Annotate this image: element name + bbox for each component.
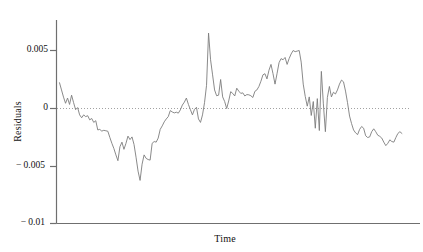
x-axis-title: Time [160,233,290,244]
chart-figure: 0.005 0 − 0.005 − 0.01 Residuals Time [0,0,423,252]
y-axis-title: Residuals [12,77,23,167]
chart-background [0,0,423,252]
y-axis-title-wrap: Residuals [2,0,24,252]
residuals-line-chart [0,0,423,252]
